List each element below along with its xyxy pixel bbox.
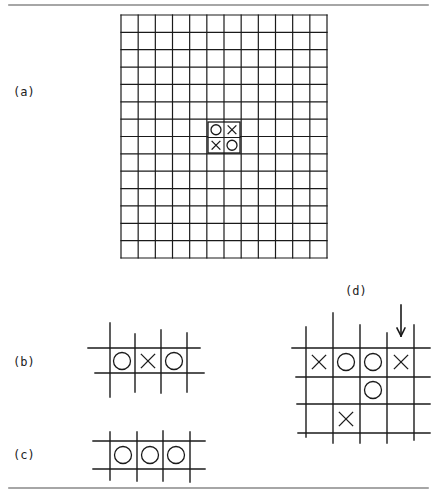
o-mark-icon: [365, 382, 382, 399]
o-mark-icon: [114, 353, 131, 370]
o-mark-icon: [166, 353, 183, 370]
figure-canvas: [0, 0, 434, 494]
panel-d-position: [292, 305, 430, 443]
o-mark-icon: [338, 354, 355, 371]
o-mark-icon: [365, 354, 382, 371]
x-mark-icon: [339, 412, 352, 425]
o-mark-icon: [115, 447, 132, 464]
panel-label-d: (d): [345, 284, 367, 298]
o-mark-icon: [168, 447, 185, 464]
panel-label-c: (c): [13, 448, 35, 462]
panel-b-oxo-row: [88, 323, 204, 397]
x-mark-icon: [312, 355, 325, 368]
panel-c-ooo-row: [93, 431, 205, 482]
panel-label-b: (b): [13, 355, 35, 369]
panel-label-a: (a): [13, 85, 35, 99]
page-rules: [9, 5, 428, 488]
panel-a-full-board: [121, 15, 327, 258]
down-arrow-icon: [397, 305, 405, 336]
x-mark-icon: [394, 355, 407, 368]
x-mark-icon: [141, 354, 154, 367]
o-mark-icon: [142, 447, 159, 464]
